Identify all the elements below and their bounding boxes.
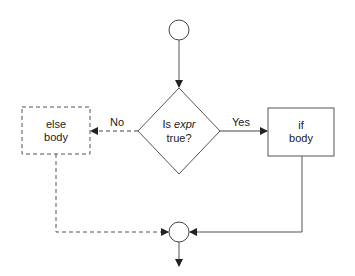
join-node bbox=[169, 222, 189, 242]
else-to-join-arrow bbox=[56, 154, 168, 232]
else-body-line1: else bbox=[46, 118, 66, 130]
start-node bbox=[169, 20, 189, 40]
flowchart-canvas: Is expr true? No Yes else body if body bbox=[0, 0, 355, 276]
if-to-join-arrow bbox=[190, 156, 302, 232]
decision-label-line1: Is expr bbox=[162, 118, 196, 130]
yes-label: Yes bbox=[232, 116, 250, 128]
if-body-line2: body bbox=[289, 132, 313, 144]
if-body-line1: if bbox=[298, 119, 304, 131]
else-body-line2: body bbox=[44, 131, 68, 143]
decision-label-line2: true? bbox=[166, 132, 191, 144]
no-label: No bbox=[110, 116, 124, 128]
decision-node bbox=[138, 88, 220, 174]
